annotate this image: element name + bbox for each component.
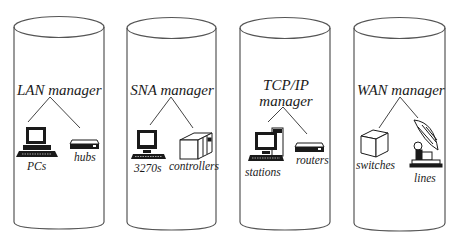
workstation-tower-icon bbox=[248, 128, 284, 161]
connector-wan bbox=[379, 97, 418, 128]
manager-label-wan: WAN manager bbox=[357, 83, 443, 98]
controller-box-icon bbox=[180, 133, 212, 159]
device-label-controllers: controllers bbox=[169, 161, 219, 173]
device-label-routers: routers bbox=[296, 155, 329, 167]
device-label-3270s: 3270s bbox=[134, 163, 161, 175]
device-label-pcs: PCs bbox=[27, 161, 46, 173]
cylinder-lan bbox=[14, 17, 104, 230]
cylinder-wan bbox=[354, 18, 445, 232]
manager-label-tcpip-line1: TCP/IP bbox=[244, 78, 328, 93]
cylinder-sna bbox=[127, 18, 216, 231]
device-label-hubs: hubs bbox=[74, 152, 96, 164]
terminal-icon bbox=[131, 130, 166, 159]
network-domains-diagram bbox=[0, 0, 457, 242]
manager-label-lan: LAN manager bbox=[17, 83, 101, 98]
connector-sna bbox=[150, 97, 193, 128]
cylinder-tcpip bbox=[240, 18, 330, 231]
switch-cube-icon bbox=[361, 130, 388, 157]
device-label-lines: lines bbox=[414, 173, 436, 185]
manager-label-sna: SNA manager bbox=[129, 83, 215, 98]
hub-icon bbox=[70, 140, 99, 149]
connector-lan bbox=[28, 97, 80, 128]
satellite-dish-icon bbox=[410, 120, 442, 167]
manager-label-tcpip-line2: manager bbox=[244, 94, 328, 109]
desktop-pc-icon bbox=[16, 127, 58, 157]
router-icon bbox=[295, 143, 324, 152]
device-label-stations: stations bbox=[245, 167, 281, 179]
device-label-switches: switches bbox=[356, 160, 395, 172]
